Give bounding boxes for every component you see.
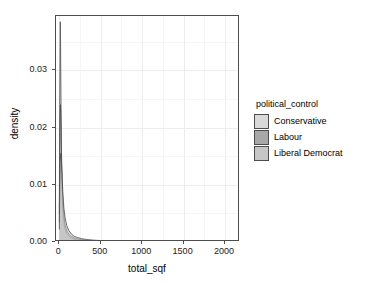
legend-item-label: Labour xyxy=(274,132,302,143)
y-tick-label: 0.03 xyxy=(13,64,47,74)
y-axis-title: density xyxy=(9,94,20,154)
density-series-labour xyxy=(59,105,237,241)
legend-item-label: Conservative xyxy=(274,116,327,127)
y-tick-mark xyxy=(52,184,55,185)
legend: political_control ConservativeLabourLibe… xyxy=(254,99,372,161)
density-line xyxy=(59,153,237,241)
x-tick-mark xyxy=(100,241,101,244)
density-plot-figure: 0.000.010.020.030500100015002000 total_s… xyxy=(0,0,375,294)
legend-items: ConservativeLabourLiberal Democrat xyxy=(254,113,372,161)
x-tick-label: 1000 xyxy=(121,246,161,256)
x-tick-mark xyxy=(58,241,59,244)
legend-item-liberal-democrat[interactable]: Liberal Democrat xyxy=(254,145,372,161)
legend-item-labour[interactable]: Labour xyxy=(254,129,372,145)
legend-item-conservative[interactable]: Conservative xyxy=(254,113,372,129)
x-axis-title: total_sqf xyxy=(55,263,239,274)
density-curves xyxy=(56,16,239,241)
x-tick-mark xyxy=(183,241,184,244)
y-tick-mark xyxy=(52,241,55,242)
x-tick-label: 500 xyxy=(80,246,120,256)
density-area xyxy=(59,153,237,241)
density-series-conservative xyxy=(59,22,237,241)
density-line xyxy=(59,22,237,241)
legend-item-label: Liberal Democrat xyxy=(274,148,343,159)
density-area xyxy=(59,22,237,241)
x-tick-label: 1500 xyxy=(163,246,203,256)
density-line xyxy=(59,105,237,241)
y-tick-mark xyxy=(52,127,55,128)
y-tick-label: 0.01 xyxy=(13,179,47,189)
y-tick-mark xyxy=(52,69,55,70)
legend-swatch-icon xyxy=(254,114,269,129)
legend-swatch-icon xyxy=(254,130,269,145)
x-tick-label: 0 xyxy=(38,246,78,256)
y-tick-label: 0.00 xyxy=(13,236,47,246)
plot-panel xyxy=(55,15,239,241)
legend-swatch-icon xyxy=(254,146,269,161)
x-tick-label: 2000 xyxy=(204,246,244,256)
density-series-liberal-democrat xyxy=(59,153,237,241)
x-tick-mark xyxy=(224,241,225,244)
legend-title: political_control xyxy=(256,99,372,110)
density-area xyxy=(59,105,237,241)
x-tick-mark xyxy=(141,241,142,244)
